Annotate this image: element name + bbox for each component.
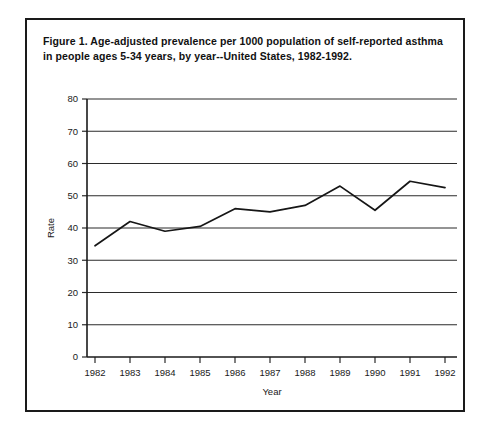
x-tick-label: 1982 xyxy=(84,367,105,378)
x-tick-label: 1991 xyxy=(399,367,420,378)
x-tick-label: 1986 xyxy=(224,367,245,378)
x-tick-label: 1989 xyxy=(329,367,350,378)
line-chart: 01020304050607080 1982198319841985198619… xyxy=(27,20,467,414)
y-tick-label: 30 xyxy=(67,255,78,266)
y-tick-label: 60 xyxy=(67,158,78,169)
x-tick-label: 1990 xyxy=(364,367,385,378)
y-tick-label: 70 xyxy=(67,126,78,137)
data-line-series xyxy=(95,181,445,246)
chart-plot-area: 01020304050607080 1982198319841985198619… xyxy=(27,20,463,410)
y-tick-label: 20 xyxy=(67,287,78,298)
y-tick-label: 40 xyxy=(67,222,78,233)
y-axis-ticks: 01020304050607080 xyxy=(67,93,87,362)
x-axis-title: Year xyxy=(262,386,281,397)
x-tick-label: 1992 xyxy=(434,367,455,378)
x-tick-label: 1985 xyxy=(189,367,210,378)
y-axis-title: Rate xyxy=(45,218,56,238)
figure-panel: Figure 1. Age-adjusted prevalence per 10… xyxy=(25,18,465,412)
x-axis-ticks: 1982198319841985198619871988198919901991… xyxy=(84,357,455,378)
y-tick-label: 50 xyxy=(67,190,78,201)
x-tick-label: 1984 xyxy=(154,367,175,378)
x-tick-label: 1987 xyxy=(259,367,280,378)
y-tick-label: 80 xyxy=(67,93,78,104)
y-tick-label: 0 xyxy=(73,351,78,362)
x-tick-label: 1983 xyxy=(119,367,140,378)
x-tick-label: 1988 xyxy=(294,367,315,378)
y-tick-label: 10 xyxy=(67,319,78,330)
